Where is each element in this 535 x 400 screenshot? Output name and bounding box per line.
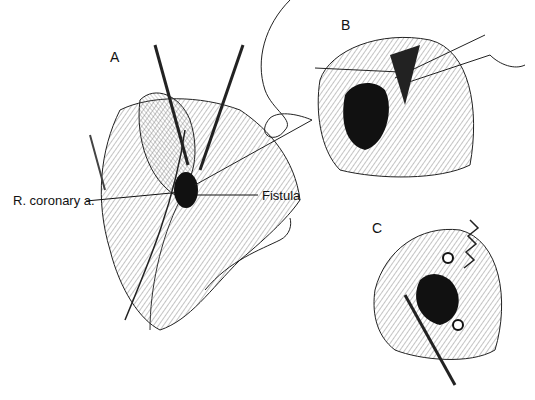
panel-c-drawing bbox=[374, 220, 502, 385]
coronary-artery-label: R. coronary a. bbox=[13, 194, 95, 207]
panel-label-c: C bbox=[372, 221, 382, 235]
panel-b-drawing bbox=[315, 35, 525, 177]
panel-label-a: A bbox=[110, 50, 119, 64]
panel-label-b: B bbox=[341, 18, 350, 32]
panel-a-drawing bbox=[90, 0, 312, 330]
fistula-label: Fistula bbox=[262, 189, 300, 202]
